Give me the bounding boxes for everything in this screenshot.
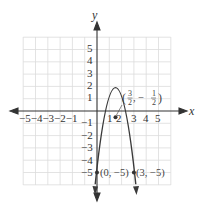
y-tick-5: 5 [87, 42, 93, 54]
y-axis-label: y [91, 8, 98, 22]
svg-text:, −: , − [133, 92, 144, 103]
x-axis-arrow-right [179, 108, 187, 114]
y-tick-1: 1 [87, 91, 93, 103]
y-tick-m3: −3 [81, 141, 93, 153]
x-tick-1: 1 [107, 112, 113, 124]
vertex-label: ( 3 2 , − 1 2 ) [122, 89, 162, 107]
point-0-m5 [95, 171, 99, 175]
y-tick-labels: 5 4 3 2 1 −1 −2 −3 −4 −5 [81, 42, 93, 178]
x-tick-4: 4 [143, 112, 149, 124]
y-tick-4: 4 [87, 54, 93, 66]
x-tick-3: 3 [131, 112, 137, 124]
svg-text:3: 3 [128, 89, 132, 98]
y-axis-arrow-up [94, 22, 100, 30]
point-label-3-m5: (3, −5) [136, 167, 165, 179]
svg-text:): ) [158, 91, 162, 105]
y-tick-2: 2 [87, 79, 93, 91]
x-axis-arrow-left [10, 108, 18, 114]
vertex-point [114, 115, 118, 119]
y-tick-m4: −4 [81, 154, 93, 166]
chart-canvas: x y −5−4−3−2−1 1 2 3 4 5 5 4 3 2 1 −1 −2… [0, 0, 204, 206]
y-tick-m5: −5 [81, 166, 93, 178]
y-tick-3: 3 [87, 67, 93, 79]
curve-arrow-right [133, 186, 139, 195]
svg-text:1: 1 [152, 89, 156, 98]
x-tick-5: 5 [155, 112, 161, 124]
y-tick-m1: −1 [81, 116, 93, 128]
x-axis-label: x [188, 104, 195, 118]
point-label-0-m5: (0, −5) [100, 167, 129, 179]
x-tick-negatives: −5−4−3−2−1 [19, 112, 78, 124]
y-tick-m2: −2 [81, 129, 93, 141]
svg-text:(: ( [122, 91, 126, 105]
svg-text:2: 2 [152, 98, 156, 107]
svg-text:2: 2 [128, 98, 132, 107]
